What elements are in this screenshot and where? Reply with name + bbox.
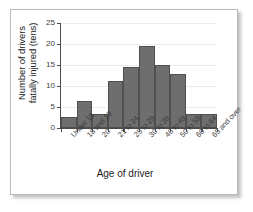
plot-area: 0510152025Under 1818 and 192021 to 2425 …: [61, 23, 217, 128]
y-axis-tick-label: 15: [46, 60, 55, 69]
x-axis-tick: [170, 128, 171, 132]
y-axis-line: [60, 23, 61, 128]
y-axis-tick: [57, 65, 61, 66]
x-axis-tick: [61, 128, 62, 132]
gridline: [61, 44, 217, 45]
y-axis-tick-label: 10: [46, 81, 55, 90]
y-axis-tick-label: 5: [51, 102, 55, 111]
x-axis-tick: [186, 128, 187, 132]
bar: [108, 81, 124, 128]
x-axis-tick: [201, 128, 202, 132]
x-axis-title: Age of driver: [11, 168, 239, 179]
y-axis-tick-label: 25: [46, 18, 55, 27]
chart-figure-frame: Number of drivers fatally injured (tens)…: [10, 9, 238, 195]
gridline: [61, 23, 217, 24]
x-axis-tick: [108, 128, 109, 132]
y-axis-tick: [57, 44, 61, 45]
y-axis-tick: [57, 23, 61, 24]
y-axis-tick-label: 20: [46, 39, 55, 48]
y-axis-title: Number of drivers fatally injured (tens): [16, 3, 38, 123]
x-axis-tick: [77, 128, 78, 132]
y-axis-tick-label: 0: [51, 123, 55, 132]
y-axis-tick: [57, 107, 61, 108]
y-axis-tick: [57, 86, 61, 87]
x-axis-tick: [139, 128, 140, 132]
x-axis-tick: [217, 128, 218, 132]
x-axis-tick: [123, 128, 124, 132]
x-axis-tick: [155, 128, 156, 132]
x-axis-tick: [92, 128, 93, 132]
plot-inner: [61, 23, 217, 128]
